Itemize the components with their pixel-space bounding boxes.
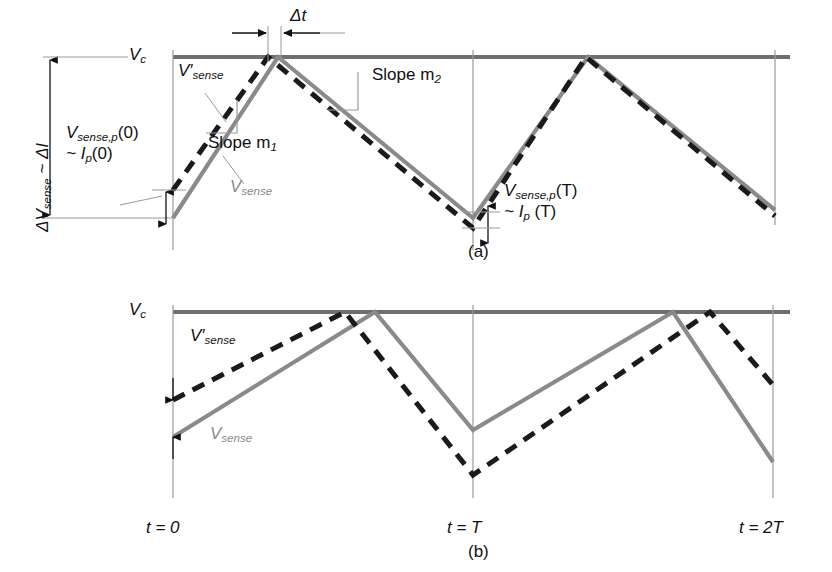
panel-b-tick-t0: t = 0 — [146, 519, 180, 537]
panel-b-vsense-label: Vsense — [210, 425, 252, 444]
panel-a-vsense-label: Vsense — [230, 178, 272, 197]
panel-a-delta-t-label: Δt — [290, 7, 306, 25]
panel-a-tag: (a) — [468, 243, 489, 261]
panel-a-vsense-p0-leader — [120, 196, 162, 205]
panel-a-vprime-sense-label: V′sense — [178, 62, 223, 81]
panel-a-vsense-pT-label: Vsense,p(T) ~ Ip (T) — [504, 182, 578, 223]
panel-b-vprime-sense-label: V′sense — [190, 327, 235, 346]
panel-b-group — [173, 305, 790, 498]
panel-a-delta-v-axis-label: ΔVsense ~ ΔI — [34, 143, 53, 232]
panel-a-group — [43, 26, 790, 250]
panel-b-tag: (b) — [468, 543, 489, 561]
panel-a-vc-label: Vc — [129, 46, 146, 65]
panel-b-vc-label: Vc — [129, 301, 146, 320]
panel-b-tick-tT: t = T — [447, 519, 481, 537]
panel-b-tick-t2T: t = 2T — [739, 519, 783, 537]
panel-a-vprime-leader — [205, 93, 226, 122]
panel-a-slope-m1-label: Slope m1 — [208, 134, 277, 153]
panel-a-slope-m2-label: Slope m2 — [372, 66, 441, 85]
figure-canvas — [0, 0, 832, 572]
panel-a-vsense-p0-label: Vsense,p(0) ~ Ip(0) — [66, 124, 139, 165]
